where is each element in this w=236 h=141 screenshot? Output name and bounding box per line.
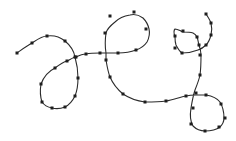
sample-point [199, 74, 202, 77]
sample-point [185, 95, 188, 98]
sample-point [109, 76, 112, 79]
sample-point [85, 53, 88, 56]
sample-point [16, 52, 19, 55]
sample-point [117, 52, 120, 55]
sample-point [41, 101, 44, 104]
curve-diagram [0, 0, 236, 141]
sample-point [204, 130, 207, 133]
sample-point [190, 123, 193, 126]
sample-point [192, 107, 195, 110]
sample-point [74, 95, 77, 98]
sample-point [195, 92, 198, 95]
sample-point [182, 30, 185, 33]
sample-point [77, 77, 80, 80]
sample-point [220, 103, 223, 106]
sample-point [199, 54, 202, 57]
sample-point [174, 35, 177, 38]
sample-point [40, 83, 43, 86]
sample-point [181, 52, 184, 55]
sample-point [210, 34, 213, 37]
sample-point [224, 117, 227, 120]
sample-point [165, 100, 168, 103]
sample-point [104, 32, 107, 35]
sample-point [205, 44, 208, 47]
sample-point [64, 106, 67, 109]
sample-point [174, 47, 177, 50]
sample-point [218, 126, 221, 129]
sample-point [46, 35, 49, 38]
sample-point [99, 52, 102, 55]
sample-point [205, 94, 208, 97]
sample-point [144, 101, 147, 104]
sample-point [54, 67, 57, 70]
diagram-canvas [0, 0, 236, 141]
sample-point [66, 60, 69, 63]
sample-point [198, 44, 201, 47]
sample-point [31, 42, 34, 45]
sample-point [205, 13, 208, 16]
sample-point [135, 49, 138, 52]
sample-point [210, 22, 213, 25]
sample-point [133, 11, 136, 14]
sample-point [122, 93, 125, 96]
sample-point [51, 107, 54, 110]
sample-point [64, 40, 67, 43]
sample-point [105, 59, 108, 62]
sample-point [196, 36, 199, 39]
sample-point [75, 56, 78, 59]
smooth-curve [17, 14, 224, 131]
sample-points [16, 11, 227, 133]
sample-point [109, 15, 112, 18]
sample-point [145, 28, 148, 31]
